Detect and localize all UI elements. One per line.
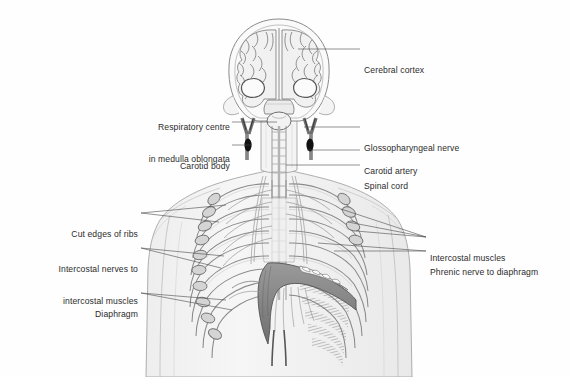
label-carotid-body: Carotid body <box>112 140 230 193</box>
label-cerebral-cortex: Cerebral cortex <box>364 44 424 97</box>
label-cerebral-cortex-line1: Cerebral cortex <box>364 65 424 76</box>
label-intercostal-nerves-line1: Intercostal nerves to <box>15 264 138 275</box>
anatomical-diagram: Respiratory centre in medulla oblongata … <box>0 0 571 377</box>
label-carotid-body-line1: Carotid body <box>112 161 230 172</box>
label-respiratory-centre-line1: Respiratory centre <box>92 122 230 133</box>
label-phrenic-nerve: Phrenic nerve to diaphragm <box>430 246 538 299</box>
label-spinal-cord: Spinal cord <box>364 160 408 213</box>
label-phrenic-nerve-line1: Phrenic nerve to diaphragm <box>430 267 538 278</box>
label-spinal-cord-line1: Spinal cord <box>364 181 408 192</box>
label-diaphragm: Diaphragm <box>58 288 138 341</box>
label-diaphragm-line1: Diaphragm <box>58 309 138 320</box>
label-cut-edges-of-ribs-line1: Cut edges of ribs <box>28 229 138 240</box>
